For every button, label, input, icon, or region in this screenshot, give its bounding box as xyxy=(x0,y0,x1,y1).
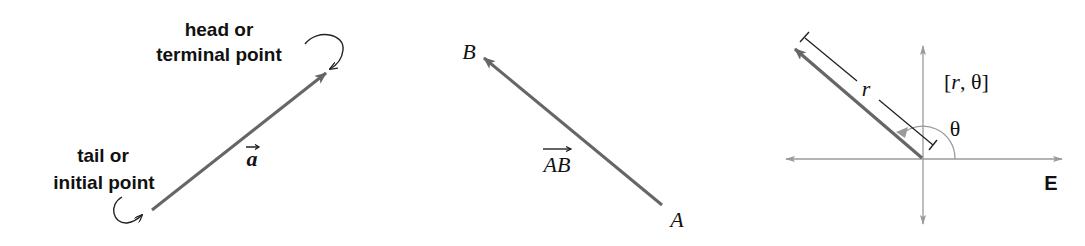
panel-vector-parts: a head or terminal point tail or initial… xyxy=(53,19,343,223)
polar-coordinate-label: [r, θ] xyxy=(944,69,989,94)
head-label-line1: head or xyxy=(185,19,254,40)
axis-E-label: E xyxy=(1044,172,1057,194)
angle-theta-arc xyxy=(901,126,955,159)
magnitude-r-label: r xyxy=(862,76,871,101)
vector-AB-label: AB xyxy=(542,152,571,177)
angle-theta-label: θ xyxy=(950,116,961,141)
panel-vector-AB: B A AB xyxy=(462,39,684,232)
vector-a-label: a xyxy=(247,146,258,171)
vector-diagram: a head or terminal point tail or initial… xyxy=(0,0,1085,246)
tail-label-line1: tail or xyxy=(77,145,129,166)
point-A-label: A xyxy=(668,207,684,232)
panel-polar-vector: r θ [r, θ] E xyxy=(786,32,1062,224)
head-curl-arrow-icon xyxy=(305,35,343,69)
tail-label-line2: initial point xyxy=(53,172,155,193)
point-B-label: B xyxy=(462,39,475,64)
vector-AB-overarrow-icon xyxy=(543,147,571,152)
vector-r-arrow xyxy=(795,49,922,158)
vector-a-arrow xyxy=(152,73,326,210)
head-label-line2: terminal point xyxy=(156,44,282,65)
tail-curl-arrow-icon xyxy=(114,197,142,223)
vector-AB-arrow xyxy=(484,58,662,205)
